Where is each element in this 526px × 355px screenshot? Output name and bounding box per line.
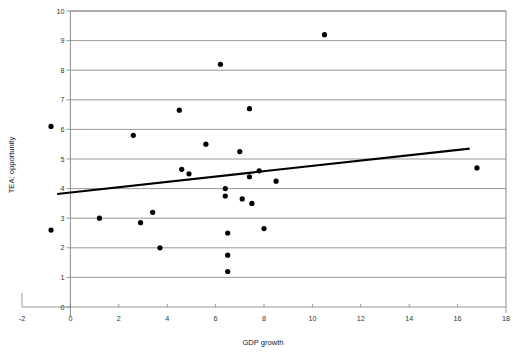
x-axis-title: GDP growth <box>242 338 283 347</box>
x-axis-ticks <box>70 304 457 307</box>
data-point <box>179 167 184 172</box>
plot-border-group <box>22 11 506 317</box>
x-tick-label-0: 0 <box>68 314 72 323</box>
x-tick-label-6: 6 <box>214 314 218 323</box>
y-tick-label-0: 0 <box>60 303 64 312</box>
y-tick-label-6: 6 <box>60 125 64 134</box>
y-tick-label-10: 10 <box>56 7 64 16</box>
trend-line <box>57 149 470 194</box>
x-tick-label-8: 8 <box>262 314 266 323</box>
data-point <box>223 186 228 191</box>
y-axis-ticks <box>66 11 70 307</box>
data-point <box>474 165 479 170</box>
data-point <box>203 142 208 147</box>
data-point <box>322 32 327 37</box>
data-point <box>223 193 228 198</box>
y-tick-label-7: 7 <box>60 95 64 104</box>
data-point <box>97 216 102 221</box>
scatter-chart: 012345678910 -2024681012141618 GDP growt… <box>0 0 526 355</box>
data-point <box>237 149 242 154</box>
chart-canvas: 012345678910 -2024681012141618 GDP growt… <box>0 0 526 355</box>
y-tick-label-5: 5 <box>60 155 64 164</box>
y-tick-label-8: 8 <box>60 66 64 75</box>
data-point <box>138 220 143 225</box>
x-tick-label-2: 2 <box>117 314 121 323</box>
data-point <box>48 124 53 129</box>
data-point <box>249 201 254 206</box>
data-point <box>218 62 223 67</box>
x-axis-tick-labels: -2024681012141618 <box>19 314 510 323</box>
data-point <box>225 269 230 274</box>
data-point <box>225 253 230 258</box>
y-tick-label-9: 9 <box>60 36 64 45</box>
y-tick-label-4: 4 <box>60 184 64 193</box>
plot-gridlines <box>70 11 506 277</box>
data-point <box>240 196 245 201</box>
data-point <box>247 174 252 179</box>
data-point <box>157 245 162 250</box>
trendline-group <box>57 149 470 194</box>
x-tick-label-16: 16 <box>454 314 462 323</box>
y-axis-title: TEA: opportunity <box>7 137 16 194</box>
data-point <box>247 106 252 111</box>
data-point <box>48 227 53 232</box>
y-axis-tick-labels: 012345678910 <box>56 7 64 312</box>
y-tick-label-2: 2 <box>60 243 64 252</box>
x-tick-label-18: 18 <box>502 314 510 323</box>
x-tick-label-12: 12 <box>357 314 365 323</box>
x-tick-label-10: 10 <box>308 314 316 323</box>
data-point <box>150 210 155 215</box>
x-tick-label-4: 4 <box>165 314 169 323</box>
data-point <box>177 108 182 113</box>
data-point <box>261 226 266 231</box>
data-point <box>131 133 136 138</box>
y-tick-label-3: 3 <box>60 214 64 223</box>
x-tick-label--2: -2 <box>19 314 25 323</box>
data-points-group <box>48 32 479 274</box>
data-point <box>186 171 191 176</box>
data-point <box>225 230 230 235</box>
x-tick-label-14: 14 <box>405 314 413 323</box>
data-point <box>274 179 279 184</box>
y-tick-label-1: 1 <box>60 273 64 282</box>
